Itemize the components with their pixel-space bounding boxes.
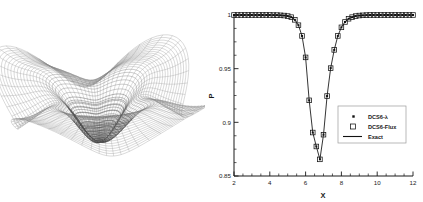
marker-dot — [326, 95, 328, 97]
wireframe-mesh — [0, 35, 205, 156]
x-tick-label: 8 — [340, 179, 344, 186]
marker-dot — [276, 14, 278, 16]
plot-axes — [234, 15, 413, 176]
y-tick-label: 0.85 — [219, 172, 232, 179]
marker-dot — [237, 14, 239, 16]
marker-dot — [240, 14, 242, 16]
marker-dot — [330, 67, 332, 69]
marker-dot — [258, 14, 260, 16]
marker-dot — [305, 56, 307, 58]
marker-dot — [383, 14, 385, 16]
marker-dot — [312, 132, 314, 134]
marker-dot — [369, 14, 371, 16]
marker-dot — [373, 14, 375, 16]
marker-dot — [247, 14, 249, 16]
legend-marker-dot — [352, 115, 354, 117]
y-axis-ticks: 0.850.90.951 — [219, 11, 239, 179]
marker-dot — [269, 14, 271, 16]
marker-dot — [405, 14, 407, 16]
x-tick-label: 4 — [268, 179, 272, 186]
y-tick-label: 1 — [228, 11, 232, 18]
x-tick-label: 2 — [232, 179, 236, 186]
marker-dot — [244, 14, 246, 16]
pressure-line-plot: 24681012 0.850.90.951 X P DCS6-λ DCS6-Fl… — [205, 0, 423, 202]
surface-plot-panel — [0, 0, 205, 202]
marker-dot — [344, 21, 346, 23]
marker-dot — [333, 49, 335, 51]
x-tick-label: 12 — [410, 179, 417, 186]
marker-dot — [254, 14, 256, 16]
x-tick-label: 6 — [304, 179, 308, 186]
legend-label-dcs6-flux: DCS6-Flux — [368, 124, 397, 130]
marker-dot — [280, 14, 282, 16]
y-axis-label: P — [207, 93, 216, 98]
marker-dot — [340, 26, 342, 28]
marker-dot — [348, 18, 350, 20]
mesh-ring-line — [30, 59, 170, 125]
marker-dot — [251, 14, 253, 16]
marker-dot — [387, 14, 389, 16]
x-tick-label: 10 — [374, 179, 381, 186]
marker-dot — [301, 35, 303, 37]
marker-dot — [337, 35, 339, 37]
x-axis-label: X — [320, 191, 325, 200]
legend-label-dcs6-lambda: DCS6-λ — [368, 114, 389, 120]
marker-dot — [380, 14, 382, 16]
marker-dot — [294, 19, 296, 21]
marker-dot — [233, 14, 235, 16]
marker-dot — [265, 14, 267, 16]
x-axis-ticks: 24681012 — [232, 172, 417, 187]
marker-dot — [376, 14, 378, 16]
marker-dot — [355, 15, 357, 17]
marker-dot — [287, 15, 289, 17]
marker-dot — [398, 14, 400, 16]
plot-legend: DCS6-λ DCS6-Flux Exact — [338, 106, 406, 143]
marker-dot — [412, 14, 414, 16]
y-tick-label: 0.9 — [222, 119, 231, 126]
marker-dot — [362, 14, 364, 16]
pressure-surface-wireframe — [0, 0, 205, 202]
marker-dot — [391, 14, 393, 16]
marker-dot — [351, 16, 353, 18]
marker-dot — [308, 99, 310, 101]
marker-dot — [408, 14, 410, 16]
marker-dot — [283, 15, 285, 17]
legend-label-exact: Exact — [368, 134, 383, 140]
mesh-radial-line — [100, 96, 182, 141]
marker-dot — [323, 134, 325, 136]
marker-dot — [272, 14, 274, 16]
y-tick-label: 0.95 — [219, 65, 232, 72]
marker-dot — [358, 15, 360, 17]
figure-container: 24681012 0.850.90.951 X P DCS6-λ DCS6-Fl… — [0, 0, 423, 202]
marker-dot — [315, 145, 317, 147]
marker-dot — [401, 14, 403, 16]
marker-dot — [394, 14, 396, 16]
line-plot-panel: 24681012 0.850.90.951 X P DCS6-λ DCS6-Fl… — [205, 0, 423, 202]
marker-dot — [319, 158, 321, 160]
mesh-radial-line — [39, 59, 100, 142]
marker-dot — [365, 14, 367, 16]
marker-dot — [297, 24, 299, 26]
marker-dot — [262, 14, 264, 16]
marker-dot — [290, 16, 292, 18]
